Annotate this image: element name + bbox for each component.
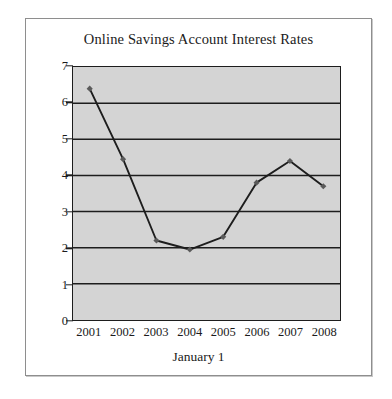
data-point-marker <box>120 156 126 162</box>
plot-svg <box>73 67 340 320</box>
data-point-marker <box>153 237 159 243</box>
x-tick-label: 2007 <box>278 325 303 340</box>
x-tick-label: 2003 <box>144 325 169 340</box>
x-tick-label: 2001 <box>76 325 101 340</box>
x-tick-label: 2002 <box>110 325 135 340</box>
y-tick-label: 0 <box>46 314 68 329</box>
x-axis-tick-labels: 2001 2002 2003 2004 2005 2006 2007 2008 <box>72 325 341 343</box>
y-axis-tick-labels: 7 6 5 4 3 2 1 0 <box>42 66 68 321</box>
figure-frame: Online Savings Account Interest Rates 7 … <box>25 18 372 376</box>
data-line <box>90 89 324 250</box>
plot-area <box>72 66 341 321</box>
y-tick-label: 6 <box>46 95 68 110</box>
y-tick-label: 7 <box>46 59 68 74</box>
y-tick-label: 1 <box>46 277 68 292</box>
y-tick-label: 2 <box>46 241 68 256</box>
x-tick-label: 2004 <box>177 325 202 340</box>
y-tick-label: 3 <box>46 204 68 219</box>
chart-title: Online Savings Account Interest Rates <box>26 31 371 48</box>
y-tick-label: 4 <box>46 168 68 183</box>
y-tick-label: 5 <box>46 131 68 146</box>
x-tick-label: 2006 <box>244 325 269 340</box>
x-tick-label: 2005 <box>211 325 236 340</box>
gridlines <box>73 103 340 284</box>
data-point-marker <box>87 86 93 92</box>
x-axis-title: January 1 <box>26 349 371 365</box>
data-markers <box>87 86 327 253</box>
x-tick-label: 2008 <box>312 325 337 340</box>
